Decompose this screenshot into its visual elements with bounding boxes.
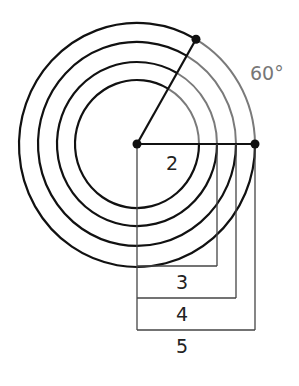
arc-r5-60deg	[196, 39, 255, 144]
label-angle-60: 60°	[250, 62, 284, 84]
label-radius-2: 2	[166, 152, 178, 174]
point-60deg	[192, 35, 201, 44]
label-radius-3: 3	[176, 271, 188, 293]
concentric-circles-diagram: 2 3 4 5 60°	[0, 0, 299, 386]
radius-line-60deg	[137, 39, 196, 144]
label-radius-5: 5	[176, 335, 188, 357]
label-radius-4: 4	[176, 303, 188, 325]
center-point	[133, 140, 142, 149]
point-0deg	[251, 140, 260, 149]
arc-r3-60deg	[177, 73, 217, 144]
arc-r2-60deg	[168, 89, 199, 144]
